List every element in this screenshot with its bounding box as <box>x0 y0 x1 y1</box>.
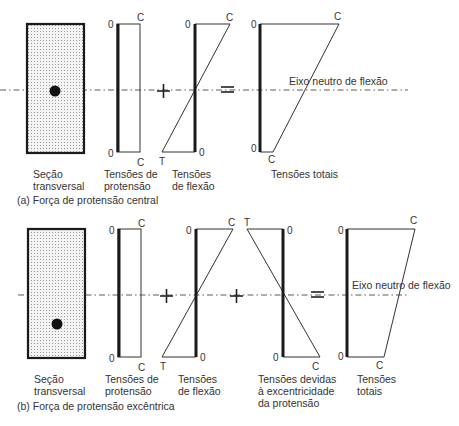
section-label: transversal <box>34 385 85 397</box>
mark-zero: 0 <box>108 148 114 159</box>
prestress-label: Tensões de <box>105 373 159 385</box>
neutral-axis-label: Eixo neutro de flexão <box>352 279 451 291</box>
mark-tension: T <box>160 361 166 372</box>
mark-compression: C <box>138 218 145 229</box>
mark-zero: 0 <box>186 225 192 236</box>
flexure-label: de flexão <box>172 180 215 192</box>
mark-tension: T <box>159 156 165 167</box>
prestress-label: Tensões de <box>104 168 158 180</box>
mark-zero: 0 <box>338 225 344 236</box>
plus-operator <box>230 289 243 303</box>
mark-zero: 0 <box>200 352 206 363</box>
total-label: Tensões totais <box>271 168 338 180</box>
flexure-stress-block: 0 C 0 T <box>159 12 233 167</box>
prestress-label: protensão <box>104 180 151 192</box>
mark-compression: C <box>376 360 383 371</box>
mark-zero: 0 <box>109 225 115 236</box>
mark-zero: 0 <box>273 352 279 363</box>
mark-zero: 0 <box>185 19 191 30</box>
section-label: transversal <box>33 180 84 192</box>
mark-compression: C <box>138 362 145 373</box>
mark-compression: C <box>312 361 319 372</box>
flexure-stress-block: 0 C 0 T <box>160 217 235 372</box>
mark-zero: 0 <box>199 147 205 158</box>
section-label: Seção <box>33 168 63 180</box>
mark-zero: 0 <box>338 351 344 362</box>
mark-compression: C <box>268 154 275 165</box>
section-label: Seção <box>34 373 64 385</box>
caption-b: (b) Força de protensão excêntrica <box>17 400 175 412</box>
flexure-label: de flexão <box>178 385 221 397</box>
flexure-label: Tensões <box>178 373 217 385</box>
mark-tension: T <box>244 217 250 228</box>
mark-compression: C <box>228 217 235 228</box>
mark-compression: C <box>137 157 144 168</box>
mark-compression: C <box>334 11 341 22</box>
eccentric-label: da protensão <box>258 397 319 409</box>
plus-operator <box>157 84 170 98</box>
mark-compression: C <box>410 215 417 226</box>
prestress-label: protensão <box>105 385 152 397</box>
tendon-eccentric <box>52 319 63 330</box>
eccentric-stress-block: T 0 0 C <box>244 217 320 372</box>
flexure-label: Tensões <box>172 168 211 180</box>
mark-compression: C <box>137 12 144 23</box>
plus-operator <box>160 289 173 303</box>
total-label: totais <box>357 385 382 397</box>
equals-operator <box>221 87 234 92</box>
caption-a: (a) Força de protensão central <box>17 194 158 206</box>
prestress-stress-diagram: 0 C 0 C 0 C 0 T 0 C 0 C <box>0 0 459 426</box>
part-a: 0 C 0 C 0 C 0 T 0 C 0 C <box>0 11 408 206</box>
equals-operator <box>311 292 324 297</box>
mark-zero: 0 <box>287 225 293 236</box>
neutral-axis-label: Eixo neutro de flexão <box>289 75 388 87</box>
mark-zero: 0 <box>251 143 257 154</box>
total-stress-block: 0 C 0 C <box>251 11 341 165</box>
cross-section <box>28 229 85 358</box>
mark-zero: 0 <box>251 19 257 30</box>
eccentric-label: à excentricidade <box>258 385 335 397</box>
mark-zero: 0 <box>109 353 115 364</box>
total-stress-block: 0 C 0 C <box>338 215 417 371</box>
tendon-central <box>50 86 61 97</box>
eccentric-label: Tensões devidas <box>258 373 336 385</box>
mark-compression: C <box>226 12 233 23</box>
part-b: 0 C 0 C 0 C 0 T T 0 0 C <box>17 215 451 412</box>
total-label: Tensões <box>357 373 396 385</box>
prestress-stress-block: 0 C 0 C <box>109 218 145 373</box>
mark-zero: 0 <box>108 19 114 30</box>
